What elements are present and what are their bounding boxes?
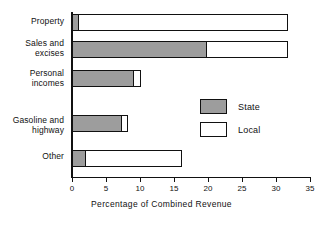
bar-state-other [72,150,86,167]
x-tick-label-10: 10 [128,184,152,193]
plot-area [72,14,310,172]
bar-state-personal-incomes [72,70,134,87]
category-label-personal-incomes: Personal incomes [0,69,64,88]
x-tick-15 [174,177,175,182]
x-tick-35 [310,177,311,182]
x-tick-label-35: 35 [298,184,322,193]
bar-chart: Property Sales and excises Personal inco… [0,0,323,225]
bar-state-property [72,14,79,31]
legend-swatch-local-icon [200,122,227,137]
legend-label-state: State [238,102,260,112]
category-label-gasoline-highway: Gasoline and highway [0,116,64,135]
x-tick-label-0: 0 [60,184,84,193]
category-label-other: Other [0,152,64,162]
x-tick-30 [276,177,277,182]
x-tick-5 [106,177,107,182]
x-tick-20 [208,177,209,182]
x-tick-10 [140,177,141,182]
x-tick-label-30: 30 [264,184,288,193]
x-tick-25 [242,177,243,182]
category-label-sales-excises: Sales and excises [0,39,64,58]
legend-item-local: Local [200,121,261,138]
legend-label-local: Local [238,125,261,135]
bar-total-property [72,14,288,31]
legend-swatch-state-icon [200,99,227,114]
x-tick-0 [72,177,73,182]
category-axis-labels: Property Sales and excises Personal inco… [0,0,68,225]
x-tick-label-20: 20 [196,184,220,193]
bar-total-other [72,150,182,167]
x-tick-label-15: 15 [162,184,186,193]
bar-state-gasoline-highway [72,115,122,132]
x-tick-label-5: 5 [94,184,118,193]
x-axis-title: Percentage of Combined Revenue [0,199,323,209]
legend: State Local [200,98,261,144]
legend-item-state: State [200,98,261,115]
x-axis-line [71,177,311,178]
bar-state-sales-excises [72,41,207,58]
category-label-property: Property [0,17,64,27]
x-tick-label-25: 25 [230,184,254,193]
